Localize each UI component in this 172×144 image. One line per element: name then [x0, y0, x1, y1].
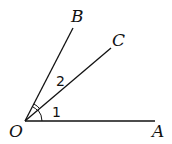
label-B: B — [70, 6, 84, 26]
ray-OB — [25, 28, 73, 121]
angle-2-label: 2 — [56, 73, 65, 89]
label-C: C — [112, 30, 125, 50]
angle-diagram: O A B C 1 2 — [0, 0, 172, 144]
label-O: O — [9, 121, 23, 141]
angle-1-arc — [38, 110, 42, 121]
angle-1-label: 1 — [52, 104, 61, 120]
ray-OC — [25, 48, 111, 121]
angle-2-arc-inner — [33, 107, 38, 111]
label-A: A — [150, 121, 164, 141]
